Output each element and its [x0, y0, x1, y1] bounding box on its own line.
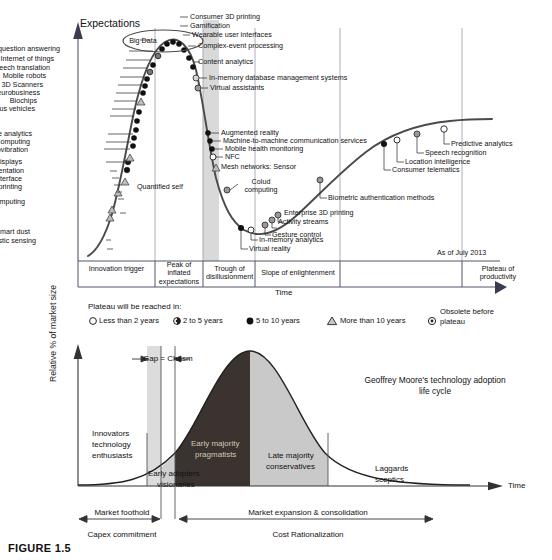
tech-label-wearable-user-interfaces: Wearable user interfaces — [192, 31, 272, 39]
tech-label-autonomous-vehicles: Autonomous vehicles — [0, 105, 35, 113]
tech-label-content-analytics: Content analytics — [198, 58, 253, 66]
tech-label-quantified-self: Quantified self — [137, 183, 183, 191]
phase-label-slope-enlightenment: Slope of enlightenment — [257, 269, 339, 277]
figure-caption: FIGURE 1.5 — [8, 542, 71, 554]
chasm-label: Gap = Chasm — [143, 355, 193, 363]
tech-label-quantum-computing: Quantum computing — [0, 198, 25, 206]
tech-label-consumer-telematics: Consumer telematics — [392, 166, 460, 174]
adoption-y-axis — [74, 344, 83, 486]
as-of-date: As of July 2013 — [437, 249, 486, 257]
segment-label-early-majority-2: pragmatists — [195, 451, 236, 459]
adoption-y-axis-label: Relative % of market size — [48, 285, 58, 382]
tech-label-location-intelligence: Location intelligence — [405, 158, 470, 166]
tech-label-virtual-reality: Virtual reality — [249, 245, 290, 253]
adoption-title: Geoffrey Moore's technology adoption lif… — [360, 375, 510, 397]
segment-label-late-majority-1: Late majority — [268, 452, 314, 460]
tech-label-cloud-computing: Colud computing — [238, 178, 284, 195]
tech-label-enterprise-3d-printing: Enterprise 3D printing — [284, 209, 354, 217]
phase-label-trough-disillusionment: Trough of disillusionment — [206, 265, 253, 282]
tech-label-speech-recognition: Speech recognition — [425, 149, 487, 157]
tech-label-3d-bioprinting: 3D Bioprinting — [0, 183, 22, 191]
segment-label-innovators-2: technology — [92, 441, 131, 449]
segment-label-early-majority-1: Early majority — [191, 440, 239, 448]
bracket-label-cost-rationalization: Cost Rationalization — [226, 531, 390, 539]
expectations-axis-label: Expectations — [80, 19, 140, 27]
time-axis-label-top: Time — [275, 289, 292, 297]
tech-label-activity-streams: Activity streams — [278, 218, 328, 226]
legend-label-more-than-10-years: More than 10 years — [340, 317, 405, 325]
phase-label-plateau-productivity: Plateau of productivity — [464, 265, 532, 282]
segment-label-early-adopters-2: visionaries — [157, 481, 195, 489]
bracket-label-capex-commitment: Capex commitment — [66, 531, 178, 539]
chasm-grey-band — [147, 346, 161, 486]
tech-label-predictive-analytics: Predictive analytics — [451, 140, 513, 148]
tech-label-nfc: NFC — [225, 153, 240, 161]
legend-title: Plateau will be reached in: — [88, 303, 181, 311]
legend-label-5-to-10-years: 5 to 10 years — [256, 317, 300, 325]
tech-label-mesh-networks: Mesh networks: Sensor — [221, 163, 296, 171]
bracket-label-market-foothold: Market foothold — [72, 509, 172, 517]
tech-label-in-memory-dbms: In-memory database management systems — [209, 74, 347, 82]
phase-label-peak-inflated-expectations: Peak of inflated expectations — [156, 261, 202, 286]
time-axis-arrow — [495, 281, 507, 294]
tech-label-bioacoustic-sensing: Bioacoustic sensing — [0, 237, 36, 245]
segment-label-innovators-1: Innovators — [92, 430, 129, 438]
segment-label-early-adopters-1: Early adopters — [148, 470, 200, 478]
segment-label-innovators-3: enthusiasts — [92, 452, 132, 460]
phase-label-innovation-trigger: Innovation trigger — [80, 265, 153, 273]
tech-label-complex-event-processing: Complex-event processing — [198, 42, 283, 50]
tech-label-electrovibration: Electrovibration — [0, 146, 28, 154]
segment-label-late-majority-2: conservatives — [266, 463, 315, 471]
legend-label-2-to-5-years: 2 to 5 years — [183, 317, 223, 325]
tech-label-natural-language: Natural-language question answering — [0, 45, 60, 53]
big-data-label: Big Data — [122, 37, 164, 45]
adoption-curve-svg — [0, 333, 552, 558]
segment-label-laggards-1: Laggards — [375, 465, 408, 473]
legend-label-less-than-2-years: Less than 2 years — [99, 317, 159, 325]
time-axis-label-bottom: Time — [508, 482, 525, 490]
tech-label-virtual-assistants: Virtual assistants — [210, 84, 264, 92]
tech-label-biometric-authentication: Biometric authentication methods — [328, 194, 434, 202]
bracket-label-market-expansion: Market expansion & consolidation — [216, 509, 400, 517]
tech-label-gesture-control: Gesture control — [272, 231, 321, 239]
y-axis — [73, 22, 83, 261]
segment-label-laggards-2: sceptics — [375, 476, 404, 484]
legend-label-obsolete-before-plateau: Obsolete before plateau — [440, 307, 506, 326]
figure-root: Expectations Big Data Natural-language q… — [0, 0, 552, 560]
